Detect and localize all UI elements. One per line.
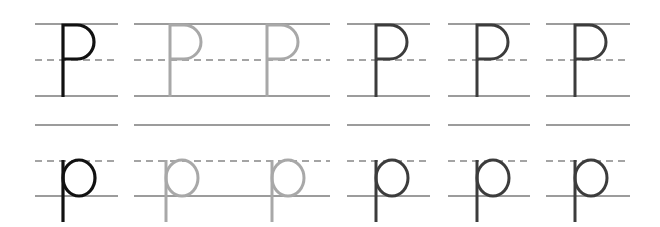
writing-cell-trace bbox=[134, 125, 330, 222]
writing-cell-practice bbox=[347, 24, 430, 97]
writing-cell-practice bbox=[546, 125, 630, 222]
uppercase-p-glyph bbox=[267, 25, 298, 97]
writing-cell-practice bbox=[448, 125, 530, 222]
uppercase-p-glyph bbox=[376, 25, 407, 97]
lowercase-p-bowl bbox=[477, 160, 509, 196]
lowercase-p-bowl bbox=[376, 160, 408, 196]
lowercase-p-bowl bbox=[272, 160, 304, 196]
uppercase-p-glyph bbox=[63, 25, 94, 97]
lowercase-row bbox=[35, 125, 630, 222]
writing-cell-practice bbox=[448, 24, 530, 97]
lowercase-p-bowl bbox=[166, 160, 198, 196]
writing-cell-model bbox=[35, 24, 118, 97]
writing-cell-practice bbox=[347, 125, 430, 222]
uppercase-p-glyph bbox=[575, 25, 606, 97]
lowercase-p-bowl bbox=[575, 160, 607, 196]
lowercase-p-bowl bbox=[63, 160, 95, 196]
uppercase-p-glyph bbox=[477, 25, 508, 97]
writing-cell-practice bbox=[546, 24, 630, 97]
worksheet-canvas bbox=[0, 0, 660, 227]
writing-cell-model bbox=[35, 125, 118, 222]
writing-cell-trace bbox=[134, 24, 330, 97]
handwriting-worksheet bbox=[0, 0, 660, 227]
uppercase-row bbox=[35, 24, 630, 97]
uppercase-p-glyph bbox=[170, 25, 201, 97]
